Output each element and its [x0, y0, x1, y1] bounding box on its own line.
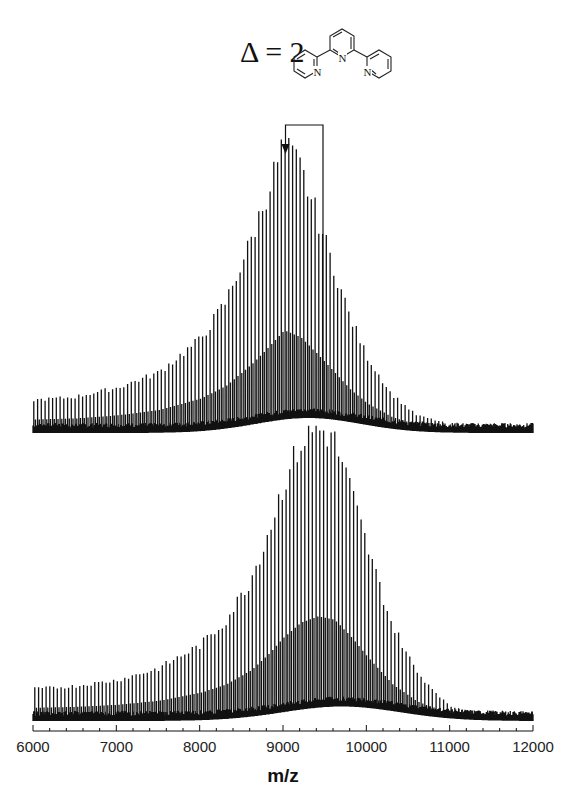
spectrum-trace	[33, 426, 533, 721]
x-tick-label: 7000	[100, 738, 133, 755]
x-tick-label: 10000	[345, 738, 387, 755]
nitrogen-label: N	[364, 66, 372, 78]
x-tick-label: 6000	[16, 738, 49, 755]
x-tick-label: 9000	[266, 738, 299, 755]
x-tick-label: 8000	[183, 738, 216, 755]
delta-label: Δ = 2	[240, 35, 305, 68]
nitrogen-label: N	[339, 52, 347, 64]
spectrum-trace	[33, 138, 533, 433]
x-tick-label: 11000	[429, 738, 470, 755]
x-axis-title: m/z	[267, 765, 299, 786]
spectra-traces	[33, 138, 533, 721]
x-axis: 6000700080009000100001100012000	[16, 725, 554, 755]
nitrogen-label: N	[314, 66, 322, 78]
x-tick-label: 12000	[512, 738, 554, 755]
mass-spectrum-chart: Δ = 2 N N N 6000700080009000100001100012…	[0, 0, 581, 798]
